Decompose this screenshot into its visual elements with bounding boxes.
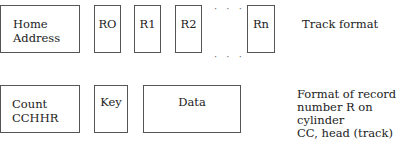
count-label-line1: Count (12, 98, 47, 111)
count-label-line2: CCHHR (12, 112, 58, 125)
record-label-r2: R2 (176, 18, 201, 31)
record-box-r2: R2 (175, 5, 202, 53)
record-box-r0: RO (94, 5, 121, 53)
data-label: Data (144, 96, 240, 109)
record-label-r1: R1 (135, 18, 160, 31)
home-address-label-line1: Home (13, 18, 48, 31)
record-format-caption: Format of record number R on cylinder CC… (297, 88, 406, 142)
key-box: Key (94, 85, 128, 133)
home-address-label-line2: Address (13, 32, 60, 45)
ellipsis-top: · · · (214, 3, 245, 14)
data-box: Data (143, 85, 241, 133)
record-label-rn: Rn (248, 18, 274, 31)
count-box: Count CCHHR (0, 85, 80, 133)
ellipsis-bottom: · · · (214, 51, 245, 62)
home-address-box: Home Address (0, 5, 80, 53)
key-label: Key (95, 96, 127, 109)
track-format-caption: Track format (302, 18, 378, 31)
record-box-rn: Rn (247, 5, 275, 53)
record-label-r0: RO (95, 18, 120, 31)
record-box-r1: R1 (134, 5, 161, 53)
